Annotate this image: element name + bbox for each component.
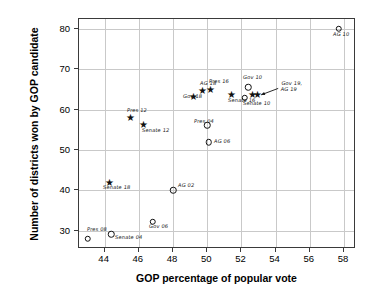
- y-axis-tick-label: 60: [46, 103, 70, 114]
- data-point-label: Pres 16: [208, 79, 229, 85]
- data-point-marker: [170, 187, 177, 194]
- y-axis-tick-label: 80: [46, 23, 70, 34]
- y-axis-tick-label: 50: [46, 144, 70, 155]
- gridline-horizontal: [79, 69, 354, 70]
- x-axis-title: GOP percentage of popular vote: [78, 272, 355, 284]
- x-axis-tick-label: 58: [338, 253, 349, 264]
- gridline-horizontal: [79, 110, 354, 111]
- data-point-label: Pres 08: [86, 227, 107, 233]
- data-point-label: Gov 06: [148, 224, 168, 230]
- x-axis-tick: [309, 248, 310, 252]
- x-axis-tick-label: 56: [304, 253, 315, 264]
- annotation-label: Gov 19, AG 19: [280, 81, 302, 93]
- x-axis-tick-label: 48: [167, 253, 178, 264]
- gridline-vertical: [241, 19, 242, 247]
- data-point-marker: ★: [253, 92, 263, 100]
- data-point-label: Senate 18: [102, 185, 130, 191]
- data-point-label: Senate 12: [142, 128, 170, 134]
- gridline-vertical: [344, 19, 345, 247]
- data-point-marker: ★: [206, 87, 216, 95]
- gridline-vertical: [310, 19, 311, 247]
- gridline-vertical: [173, 19, 174, 247]
- data-point-label: Senate 04: [115, 235, 143, 241]
- y-axis-tick-label: 70: [46, 63, 70, 74]
- data-point-label: AG 06: [214, 139, 231, 145]
- data-point-label: AG 02: [178, 183, 195, 189]
- x-axis-tick: [172, 248, 173, 252]
- gridline-horizontal: [79, 231, 354, 232]
- x-axis-tick: [275, 248, 276, 252]
- x-axis-tick-label: 52: [235, 253, 246, 264]
- gridline-horizontal: [79, 29, 354, 30]
- y-axis-title: Number of districts won by GOP candidate: [28, 14, 40, 254]
- y-axis-tick-label: 40: [46, 184, 70, 195]
- y-axis-tick-label: 30: [46, 224, 70, 235]
- x-axis-tick-label: 46: [133, 253, 144, 264]
- data-point-marker: ★: [125, 115, 135, 123]
- data-point-marker: [84, 236, 91, 243]
- data-point-label: Senate 10: [243, 101, 271, 107]
- gridline-vertical: [105, 19, 106, 247]
- x-axis-tick-label: 44: [98, 253, 109, 264]
- x-axis-tick-label: 54: [269, 253, 280, 264]
- x-axis-tick-label: 50: [201, 253, 212, 264]
- x-axis-tick: [206, 248, 207, 252]
- plot-area: Pres 08Senate 04Gov 06★Senate 18AG 02AG …: [78, 18, 355, 248]
- data-point-marker: [206, 139, 213, 146]
- gridline-vertical: [139, 19, 140, 247]
- gridline-horizontal: [79, 150, 354, 151]
- gridline-vertical: [276, 19, 277, 247]
- annotation-arrow-icon: [79, 19, 356, 249]
- x-axis-tick: [343, 248, 344, 252]
- data-point-label: AG 10: [333, 32, 350, 38]
- x-axis-tick: [240, 248, 241, 252]
- x-axis-tick: [138, 248, 139, 252]
- scatter-plot-figure: Number of districts won by GOP candidate…: [0, 0, 380, 298]
- gridline-vertical: [207, 19, 208, 247]
- data-point-label: Gov 10: [243, 75, 263, 81]
- data-point-label: Pres 12: [127, 108, 148, 114]
- data-point-label: Pres 04: [194, 119, 215, 125]
- data-point-marker: [108, 231, 115, 238]
- x-axis-tick: [104, 248, 105, 252]
